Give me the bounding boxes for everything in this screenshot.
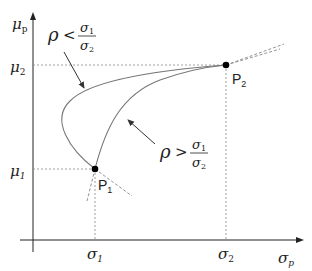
low-correlation-arrow	[64, 52, 84, 88]
mu2-label: μ2	[10, 58, 25, 77]
low-correlation-annotation: ρ < σ1 σ2	[47, 20, 96, 54]
y-axis-label: μp	[12, 15, 28, 34]
point-p1	[92, 166, 99, 173]
svg-text:<: <	[63, 26, 76, 44]
x-axis-label: σp	[278, 249, 294, 268]
high-correlation-annotation: ρ > σ1 σ2	[159, 137, 208, 171]
svg-text:ρ: ρ	[159, 141, 171, 162]
point-p2	[223, 62, 230, 69]
p2-tangent-line-b	[226, 49, 280, 65]
svg-text:σ2: σ2	[80, 38, 94, 54]
svg-text:>: >	[175, 143, 188, 161]
p2-tangent-line-a	[226, 44, 284, 65]
p1-label: P1	[98, 177, 112, 195]
svg-text:σ2: σ2	[192, 155, 206, 171]
svg-text:σ1: σ1	[192, 137, 206, 153]
high-correlation-arrow	[128, 120, 155, 144]
svg-text:σ1: σ1	[80, 20, 94, 36]
portfolio-frontier-diagram: μp σp μ2 μ1 σ1 σ2 P1 P2 ρ < σ1 σ2 ρ > σ1…	[0, 0, 312, 271]
p1-tangent-line-steep	[87, 169, 95, 201]
svg-text:ρ: ρ	[47, 24, 59, 45]
p2-label: P2	[232, 71, 246, 89]
sigma1-label: σ1	[87, 245, 103, 264]
mu1-label: μ1	[10, 162, 25, 181]
sigma2-label: σ2	[218, 245, 234, 264]
